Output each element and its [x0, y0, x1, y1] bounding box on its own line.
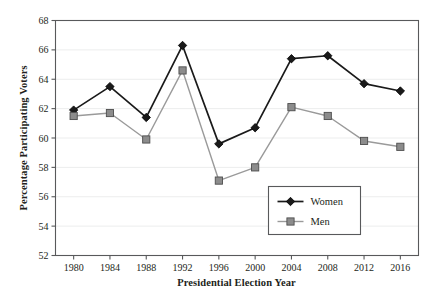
- data-point-women-2016: [396, 87, 404, 95]
- data-point-men-1984: [106, 109, 113, 116]
- x-tick-label: 1984: [100, 262, 120, 273]
- y-axis-ticks: 525456586062646668: [39, 15, 56, 261]
- y-tick-label: 68: [39, 15, 49, 26]
- y-tick-label: 58: [39, 162, 49, 173]
- gridlines: [56, 21, 419, 227]
- x-tick-label: 1980: [64, 262, 84, 273]
- data-point-women-1992: [178, 41, 186, 49]
- legend-marker-men: [287, 218, 294, 225]
- data-point-men-2008: [324, 112, 331, 119]
- y-tick-label: 54: [39, 221, 49, 232]
- x-tick-label: 1992: [173, 262, 193, 273]
- y-tick-label: 66: [39, 44, 49, 55]
- data-point-women-2000: [251, 124, 259, 132]
- chart-figure: Percentage Participating Voters Presiden…: [0, 0, 434, 305]
- series-line-men: [74, 70, 401, 180]
- x-tick-label: 1996: [209, 262, 229, 273]
- y-tick-label: 56: [39, 191, 49, 202]
- data-point-women-1996: [215, 140, 223, 148]
- line-chart-plot: 525456586062646668 198019841988199219962…: [0, 0, 434, 305]
- series-line-women: [74, 45, 401, 143]
- chart-legend: WomenMen: [269, 187, 361, 235]
- data-point-women-2004: [287, 54, 295, 62]
- data-point-men-1980: [70, 112, 77, 119]
- y-tick-label: 62: [39, 103, 49, 114]
- y-tick-label: 64: [39, 74, 49, 85]
- x-axis-ticks: 1980198419881992199620002004200820122016: [64, 256, 411, 273]
- x-tick-label: 2004: [281, 262, 301, 273]
- x-tick-label: 2008: [318, 262, 338, 273]
- data-point-men-2012: [360, 137, 367, 144]
- data-series-layer: [69, 41, 404, 184]
- x-tick-label: 1988: [136, 262, 156, 273]
- x-tick-label: 2012: [354, 262, 374, 273]
- data-point-men-1988: [143, 136, 150, 143]
- data-point-men-2004: [288, 104, 295, 111]
- data-point-men-1996: [215, 177, 222, 184]
- y-tick-label: 52: [39, 250, 49, 261]
- legend-label-men: Men: [311, 216, 331, 227]
- data-point-men-2016: [397, 143, 404, 150]
- x-tick-label: 2000: [245, 262, 265, 273]
- data-point-men-1992: [179, 67, 186, 74]
- y-tick-label: 60: [39, 133, 49, 144]
- data-point-men-2000: [252, 164, 259, 171]
- legend-label-women: Women: [311, 196, 344, 207]
- x-tick-label: 2016: [390, 262, 410, 273]
